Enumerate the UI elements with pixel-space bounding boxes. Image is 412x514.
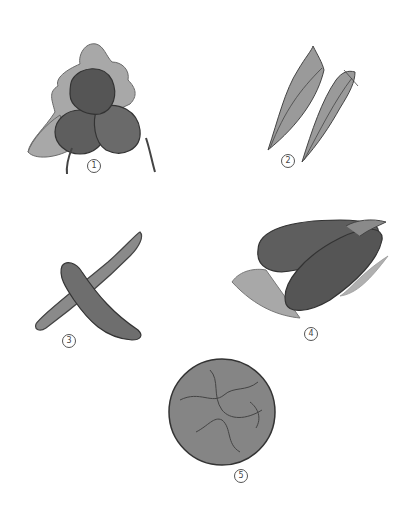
greens-drawing [268, 46, 358, 162]
item-label-2: 2 [281, 154, 295, 168]
cucumbers-drawing [36, 232, 142, 340]
vegetable-illustration [0, 0, 412, 514]
eggplants-drawing [232, 220, 388, 318]
radish-drawing [28, 44, 155, 174]
item-label-5: 5 [234, 469, 248, 483]
item-label-4: 4 [304, 327, 318, 341]
item-label-1: 1 [87, 159, 101, 173]
item-label-3: 3 [62, 334, 76, 348]
cabbage-drawing [169, 359, 275, 465]
